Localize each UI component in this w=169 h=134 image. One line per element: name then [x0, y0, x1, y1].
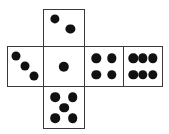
dice-net-figure [0, 0, 169, 134]
pip [68, 113, 78, 123]
pip [138, 54, 147, 63]
pip [92, 70, 101, 79]
pip [50, 92, 60, 102]
die-face-right-inner [84, 46, 124, 87]
die-face-bottom [43, 86, 85, 129]
pip [107, 70, 116, 79]
pip [66, 24, 75, 33]
pip [68, 92, 78, 102]
pip [12, 52, 21, 61]
pip [148, 70, 157, 79]
die-face-right-outer [123, 46, 163, 87]
pip [59, 61, 69, 71]
die-face-left [7, 46, 44, 87]
pip [50, 113, 60, 123]
pip [148, 54, 157, 63]
pip [107, 54, 116, 63]
pip [29, 71, 38, 80]
pip [138, 70, 147, 79]
pip [92, 54, 101, 63]
pip [59, 103, 69, 113]
pip [128, 70, 137, 79]
pip [128, 54, 137, 63]
die-face-top [43, 9, 85, 47]
pip [20, 62, 29, 71]
die-face-center [43, 46, 85, 87]
pip [50, 14, 59, 23]
